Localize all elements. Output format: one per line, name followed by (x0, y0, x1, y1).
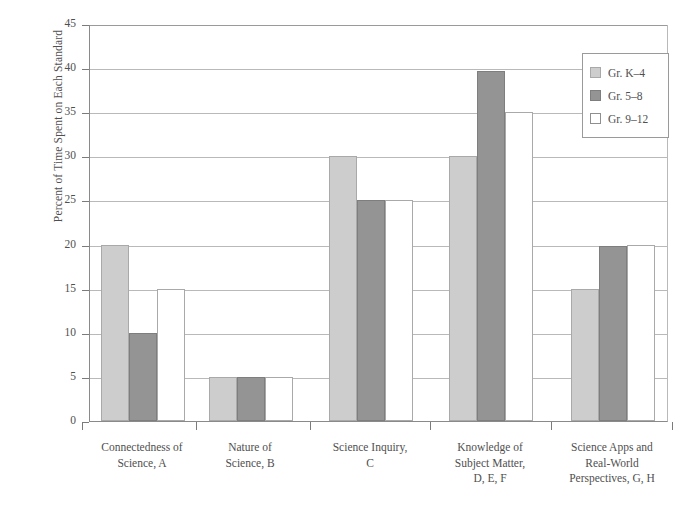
y-tick-label: 40 (28, 61, 76, 73)
x-tick-mark (551, 422, 552, 430)
x-axis-group-label: Knowledge ofSubject Matter,D, E, F (420, 440, 560, 487)
bar (627, 245, 655, 421)
y-tick-label: 5 (28, 370, 76, 382)
light-gray-swatch (590, 67, 601, 78)
bar (449, 156, 477, 421)
y-tick-label: 30 (28, 149, 76, 161)
dark-gray-swatch (590, 90, 601, 101)
white-swatch (590, 113, 601, 124)
legend-entry-label: Gr. K–4 (608, 67, 645, 79)
y-tick-mark (82, 290, 89, 291)
y-axis-title: Percent of Time Spent on Each Standard (52, 0, 64, 276)
x-tick-mark (310, 422, 311, 430)
y-tick-mark (82, 246, 89, 247)
y-tick-mark (82, 378, 89, 379)
x-axis-group-label-line: Real-World (542, 456, 682, 472)
y-tick-label: 25 (28, 193, 76, 205)
legend-entry-label: Gr. 9–12 (608, 113, 648, 125)
gridline (90, 25, 667, 26)
gridline (90, 157, 667, 158)
y-tick-label: 45 (28, 17, 76, 29)
y-tick-mark (82, 157, 89, 158)
y-tick-mark (82, 334, 89, 335)
bar (599, 246, 627, 421)
x-axis-group-label-line: Science, B (180, 456, 320, 472)
x-axis-group-label-line: Perspectives, G, H (542, 471, 682, 487)
x-axis-group-label-line: Science Apps and (542, 440, 682, 456)
bar (129, 333, 157, 421)
bar (477, 71, 505, 421)
x-axis-group-label-line: Nature of (180, 440, 320, 456)
legend-entry: Gr. K–4 (590, 61, 660, 84)
y-tick-label: 0 (28, 414, 76, 426)
legend-entry: Gr. 5–8 (590, 84, 660, 107)
y-tick-mark (82, 113, 89, 114)
x-axis-group-label-line: Science Inquiry, (300, 440, 440, 456)
x-axis-group-label: Science Inquiry,C (300, 440, 440, 471)
bar (209, 377, 237, 421)
y-tick-mark (82, 201, 89, 202)
x-axis-group-label-line: D, E, F (420, 471, 560, 487)
y-tick-label: 35 (28, 105, 76, 117)
bar (357, 200, 385, 421)
chart-legend: Gr. K–4Gr. 5–8Gr. 9–12 (582, 53, 669, 138)
x-axis-group-label: Science Apps andReal-WorldPerspectives, … (542, 440, 682, 487)
x-axis-group-label-line: C (300, 456, 440, 472)
bar (265, 377, 293, 421)
bar (101, 245, 129, 421)
x-axis-group-label-line: Subject Matter, (420, 456, 560, 472)
x-tick-mark (430, 422, 431, 430)
bar-chart-figure: Percent of Time Spent on Each Standard 4… (0, 0, 693, 507)
y-tick-label: 15 (28, 282, 76, 294)
y-tick-label: 10 (28, 326, 76, 338)
legend-entry: Gr. 9–12 (590, 107, 660, 130)
x-tick-mark (672, 422, 673, 430)
bar (157, 289, 185, 421)
gridline (90, 113, 667, 114)
bar (329, 156, 357, 421)
y-tick-label: 20 (28, 238, 76, 250)
bar (505, 112, 533, 421)
legend-entry-label: Gr. 5–8 (608, 90, 643, 102)
y-tick-mark (82, 422, 89, 423)
gridline (90, 69, 667, 70)
y-tick-mark (82, 69, 89, 70)
x-axis-group-label: Nature ofScience, B (180, 440, 320, 471)
x-tick-mark (82, 422, 83, 430)
x-tick-mark (196, 422, 197, 430)
bar (385, 200, 413, 421)
x-axis-group-label-line: Knowledge of (420, 440, 560, 456)
bar (237, 377, 265, 421)
bar (571, 289, 599, 421)
y-tick-mark (82, 25, 89, 26)
